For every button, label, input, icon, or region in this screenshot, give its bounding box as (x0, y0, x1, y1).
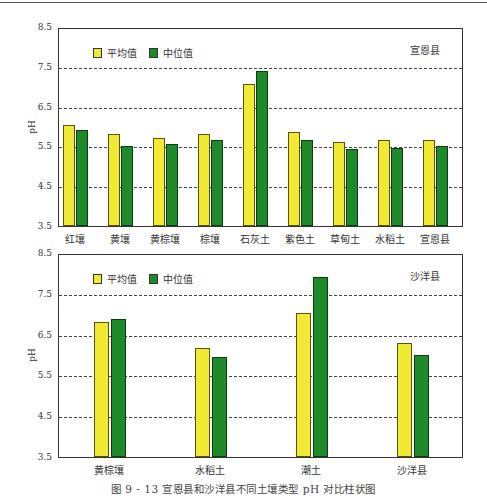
figure-caption: 图 9 - 13 宣恩县和沙洋县不同土壤类型 pH 对比柱状图 (0, 481, 487, 496)
bar-mean (195, 348, 210, 457)
bar-median (212, 357, 227, 457)
bar-mean (423, 140, 435, 226)
x-tick-label: 沙洋县 (382, 462, 442, 477)
bar-mean (243, 84, 255, 226)
bar-mean (397, 343, 412, 457)
bar-median (211, 140, 223, 226)
y-tick-label: 6.5 (22, 102, 52, 112)
y-tick-label: 8.5 (22, 248, 52, 258)
table-border-remnant (0, 2, 487, 3)
y-tick-label: 5.5 (22, 370, 52, 380)
x-tick-label: 黄棕壤 (79, 462, 139, 477)
bar-mean (94, 322, 109, 457)
legend-swatch-mean (93, 274, 102, 284)
y-tick-label: 4.5 (22, 181, 52, 191)
bar-mean (153, 138, 165, 226)
gridline (59, 68, 462, 69)
bar-mean (108, 134, 120, 226)
y-tick-label: 8.5 (22, 22, 52, 32)
y-tick-label: 7.5 (22, 62, 52, 72)
bar-median (256, 71, 268, 226)
bar-median (121, 146, 133, 226)
legend-swatch-mean (93, 48, 102, 58)
y-axis-label: pH (27, 348, 37, 362)
legend-label-median: 中位值 (163, 45, 193, 60)
bar-median (346, 149, 358, 226)
bar-median (111, 319, 126, 457)
legend-label-mean: 平均值 (107, 271, 137, 286)
chart-title: 沙洋县 (410, 268, 440, 283)
legend-swatch-median (149, 274, 158, 284)
gridline (59, 295, 462, 296)
bar-median (76, 130, 88, 226)
bar-median (301, 140, 313, 226)
bar-median (391, 148, 403, 226)
y-tick-label: 4.5 (22, 411, 52, 421)
bar-median (166, 144, 178, 226)
y-tick-label: 3.5 (22, 452, 52, 462)
bar-mean (333, 142, 345, 226)
legend-label-median: 中位值 (163, 271, 193, 286)
bar-mean (198, 134, 210, 226)
bar-mean (296, 313, 311, 457)
bar-mean (63, 125, 75, 226)
legend-label-mean: 平均值 (107, 45, 137, 60)
y-tick-label: 5.5 (22, 141, 52, 151)
y-tick-label: 7.5 (22, 289, 52, 299)
bar-mean (288, 132, 300, 226)
bar-median (313, 277, 328, 457)
x-tick-label: 水稻土 (180, 462, 240, 477)
y-axis-label: pH (27, 120, 37, 134)
legend: 平均值中位值 (93, 45, 193, 60)
chart-title: 宣恩县 (410, 42, 440, 57)
x-tick-label: 宣恩县 (405, 231, 465, 246)
x-tick-label: 潮土 (281, 462, 341, 477)
legend: 平均值中位值 (93, 271, 193, 286)
legend-swatch-median (149, 48, 158, 58)
y-tick-label: 3.5 (22, 221, 52, 231)
bar-median (414, 355, 429, 457)
bar-mean (378, 140, 390, 226)
bar-median (436, 146, 448, 226)
y-tick-label: 6.5 (22, 330, 52, 340)
